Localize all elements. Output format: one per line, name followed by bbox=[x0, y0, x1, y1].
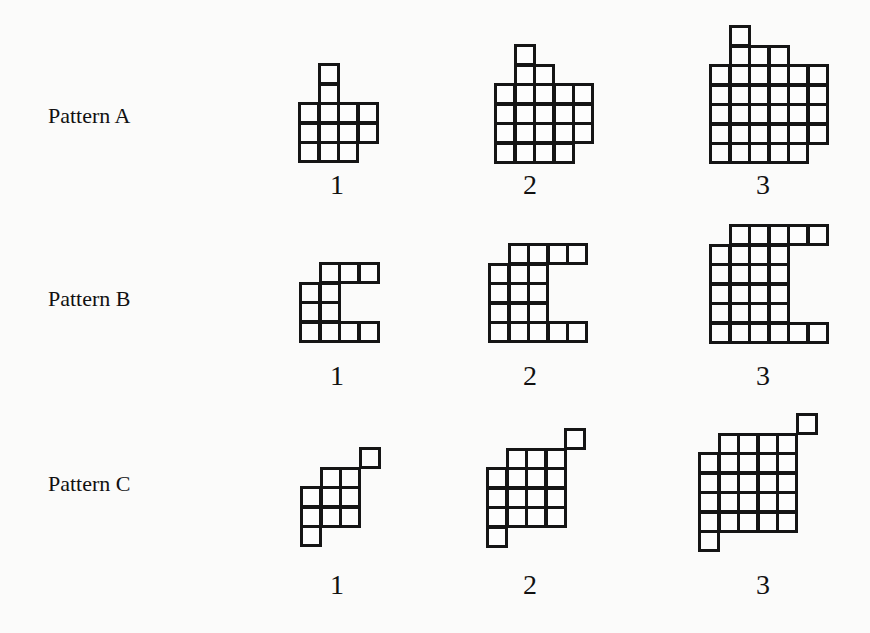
grid-square bbox=[807, 123, 829, 145]
pattern-c-label: Pattern C bbox=[48, 472, 131, 496]
pattern-b-step-2-number: 2 bbox=[510, 361, 550, 391]
grid-square bbox=[564, 428, 586, 450]
grid-square bbox=[796, 413, 818, 435]
grid-square bbox=[545, 506, 567, 528]
grid-square bbox=[776, 511, 798, 533]
pattern-b-label: Pattern B bbox=[48, 287, 131, 311]
grid-square bbox=[486, 526, 508, 548]
grid-square bbox=[359, 447, 381, 469]
grid-square bbox=[787, 142, 809, 164]
pattern-c-step-2-number: 2 bbox=[510, 570, 550, 600]
grid-square bbox=[553, 142, 575, 164]
grid-square bbox=[357, 122, 379, 144]
pattern-a-step-3-number: 3 bbox=[743, 170, 783, 200]
grid-square bbox=[337, 141, 359, 163]
pattern-a-label: Pattern A bbox=[48, 104, 131, 128]
grid-square bbox=[698, 530, 720, 552]
grid-square bbox=[572, 122, 594, 144]
grid-square bbox=[807, 322, 829, 344]
grid-square bbox=[566, 321, 588, 343]
pattern-a-step-2-number: 2 bbox=[510, 170, 550, 200]
pattern-b-step-1-number: 1 bbox=[317, 361, 357, 391]
pattern-c-step-3-number: 3 bbox=[743, 570, 783, 600]
grid-square bbox=[807, 224, 829, 246]
grid-square bbox=[358, 321, 380, 343]
grid-square bbox=[358, 262, 380, 284]
pattern-a-step-1-number: 1 bbox=[317, 170, 357, 200]
pattern-b-step-3-number: 3 bbox=[743, 361, 783, 391]
grid-square bbox=[339, 506, 361, 528]
pattern-c-step-1-number: 1 bbox=[317, 570, 357, 600]
grid-square bbox=[300, 525, 322, 547]
grid-square bbox=[566, 243, 588, 265]
